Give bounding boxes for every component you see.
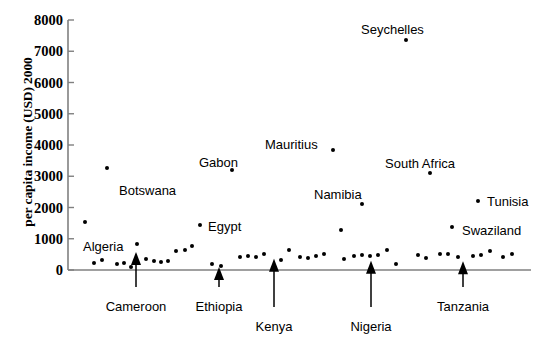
data-point — [135, 242, 139, 246]
annotation-arrow-head — [214, 267, 224, 280]
data-point — [314, 254, 318, 258]
data-point — [360, 253, 364, 257]
data-point — [306, 256, 310, 260]
data-point — [287, 248, 291, 252]
y-tick-label: 3000 — [34, 169, 63, 184]
annotation-arrow-head — [269, 259, 279, 272]
annotation-arrow-head — [366, 261, 376, 274]
y-tick-label: 8000 — [34, 13, 63, 28]
data-point-labeled — [404, 38, 408, 42]
point-label-south-africa: South Africa — [385, 157, 455, 170]
data-point — [394, 262, 398, 266]
annotation-arrow-head — [131, 252, 141, 265]
data-point — [298, 255, 302, 259]
data-point — [210, 262, 214, 266]
y-tick-label: 0 — [56, 263, 63, 278]
data-point — [416, 253, 420, 257]
data-point-labeled — [83, 220, 87, 224]
y-tick-label: 6000 — [34, 76, 63, 91]
point-label-swaziland: Swaziland — [462, 224, 521, 237]
data-point — [488, 249, 492, 253]
y-tick-label: 4000 — [34, 138, 63, 153]
data-point — [368, 254, 372, 258]
y-tick-label: 1000 — [34, 232, 63, 247]
data-point — [262, 252, 266, 256]
y-tick-label: 5000 — [34, 107, 63, 122]
point-label-tanzania: Tanzania — [437, 300, 489, 313]
data-point-labeled — [450, 225, 454, 229]
scatter-chart: per capita income (USD) 2000 80007000600… — [0, 0, 545, 337]
data-point — [152, 259, 156, 263]
data-point — [438, 252, 442, 256]
data-point — [479, 253, 483, 257]
data-point — [246, 254, 250, 258]
y-tick-label: 7000 — [34, 44, 63, 59]
data-point — [279, 258, 283, 262]
data-point — [376, 253, 380, 257]
point-label-nigeria: Nigeria — [350, 320, 391, 333]
data-point — [501, 255, 505, 259]
data-point — [115, 262, 119, 266]
data-point — [510, 252, 514, 256]
data-point — [339, 228, 343, 232]
data-point — [92, 261, 96, 265]
data-point-labeled — [360, 202, 364, 206]
point-label-algeria: Algeria — [83, 240, 123, 253]
data-point — [100, 258, 104, 262]
data-point — [174, 249, 178, 253]
data-point — [238, 255, 242, 259]
data-point-labeled — [331, 148, 335, 152]
point-label-mauritius: Mauritius — [265, 138, 318, 151]
data-point — [219, 264, 223, 268]
y-tick-label: 2000 — [34, 201, 63, 216]
data-point — [446, 252, 450, 256]
point-label-gabon: Gabon — [199, 156, 238, 169]
point-label-tunisia: Tunisia — [487, 195, 528, 208]
data-point — [322, 252, 326, 256]
data-point-labeled — [105, 166, 109, 170]
data-point — [144, 257, 148, 261]
point-label-cameroon: Cameroon — [106, 300, 167, 313]
point-label-egypt: Egypt — [208, 220, 241, 233]
point-label-botswana: Botswana — [119, 184, 176, 197]
data-point — [424, 256, 428, 260]
data-point — [254, 255, 258, 259]
data-point — [129, 265, 133, 269]
data-point — [190, 244, 194, 248]
point-label-namibia: Namibia — [314, 188, 362, 201]
y-axis-tick-labels: 800070006000500040003000200010000 — [0, 0, 63, 337]
data-point-labeled — [198, 223, 202, 227]
annotation-arrow-head — [458, 261, 468, 274]
data-point — [159, 260, 163, 264]
point-label-seychelles: Seychelles — [361, 23, 424, 36]
data-point-labeled — [428, 171, 432, 175]
chart-canvas — [0, 0, 545, 337]
data-point — [166, 259, 170, 263]
point-label-ethiopia: Ethiopia — [196, 300, 243, 313]
data-point — [122, 261, 126, 265]
data-point — [183, 248, 187, 252]
point-label-kenya: Kenya — [256, 320, 293, 333]
data-point — [471, 254, 475, 258]
data-point-labeled — [476, 199, 480, 203]
data-point — [385, 248, 389, 252]
data-point — [456, 255, 460, 259]
data-point — [352, 254, 356, 258]
data-point — [342, 257, 346, 261]
